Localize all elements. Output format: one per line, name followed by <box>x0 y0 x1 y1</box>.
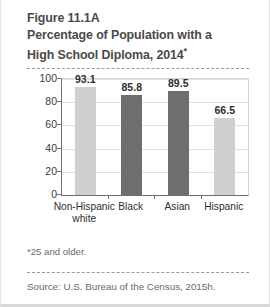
y-axis-tick-label: 60 <box>31 119 57 129</box>
y-axis-tick-label: 80 <box>31 96 57 106</box>
source-note: Source: U.S. Bureau of the Census, 2015h… <box>27 281 215 292</box>
bar-value-label: 66.5 <box>215 104 235 116</box>
x-axis-tick-mark <box>108 195 109 199</box>
x-axis-category-label-line: white <box>52 213 117 225</box>
figure-title-block: Figure 11.1A Percentage of Population wi… <box>27 10 253 64</box>
x-axis-tick-mark <box>201 195 202 199</box>
figure-card: Figure 11.1A Percentage of Population wi… <box>0 0 270 307</box>
y-axis-tick-label: 40 <box>31 143 57 153</box>
plot-area: 93.185.889.566.5 <box>61 78 249 196</box>
bar-value-label: 85.8 <box>122 81 142 93</box>
bar: 85.8 <box>121 95 142 195</box>
bar-value-label: 93.1 <box>75 73 95 85</box>
figure-title-line-1: Percentage of Population with a <box>27 27 253 44</box>
x-axis-category-label: Hispanic <box>192 201 257 213</box>
footnote: *25 and older. <box>27 246 86 257</box>
y-axis-tick-label: 100 <box>31 73 57 83</box>
divider-bottom <box>27 272 249 273</box>
x-axis-category-label-line: Hispanic <box>192 201 257 213</box>
y-axis: 020406080100 <box>27 78 57 194</box>
figure-title-line-2-text: High School Diploma, 2014 <box>27 48 184 62</box>
y-axis-tick-label: 0 <box>31 189 57 199</box>
bar-value-label: 89.5 <box>168 77 188 89</box>
figure-title-line-2: High School Diploma, 2014* <box>27 43 253 64</box>
divider-top <box>27 68 249 69</box>
bar: 93.1 <box>75 87 96 195</box>
bar-chart: 020406080100 93.185.889.566.5 Non-Hispan… <box>27 78 253 230</box>
bar: 66.5 <box>214 118 235 195</box>
y-axis-tick-label: 20 <box>31 166 57 176</box>
figure-number: Figure 11.1A <box>27 10 253 27</box>
x-axis-tick-mark <box>154 195 155 199</box>
title-asterisk: * <box>184 46 187 56</box>
bar: 89.5 <box>168 91 189 195</box>
